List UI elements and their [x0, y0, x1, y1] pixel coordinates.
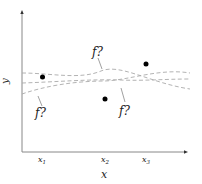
function-label-left: f?: [34, 106, 46, 120]
observation-point-1: [40, 75, 45, 80]
regression-diagram: f? f? f? x1 x2 x3 x y: [0, 0, 202, 184]
leader-left: [38, 96, 42, 106]
function-label-top: f?: [91, 45, 103, 59]
x-axis-label: x: [101, 168, 108, 181]
y-axis-arrow-icon: [20, 10, 23, 14]
candidate-curve-3: [22, 72, 190, 94]
x-axis-arrow-icon: [184, 150, 188, 153]
x-tick-3: x3: [142, 155, 151, 165]
leader-right: [121, 88, 125, 102]
function-label-right: f?: [118, 104, 130, 118]
y-axis-label: y: [0, 78, 10, 85]
x-tick-2: x2: [101, 155, 110, 165]
x-tick-1: x1: [38, 155, 46, 165]
x-tick-labels: x1 x2 x3: [38, 155, 151, 165]
candidate-functions: [22, 69, 190, 94]
observation-point-2: [103, 97, 108, 102]
leader-top: [98, 58, 102, 69]
observation-point-3: [144, 62, 149, 67]
axes: [20, 10, 188, 154]
